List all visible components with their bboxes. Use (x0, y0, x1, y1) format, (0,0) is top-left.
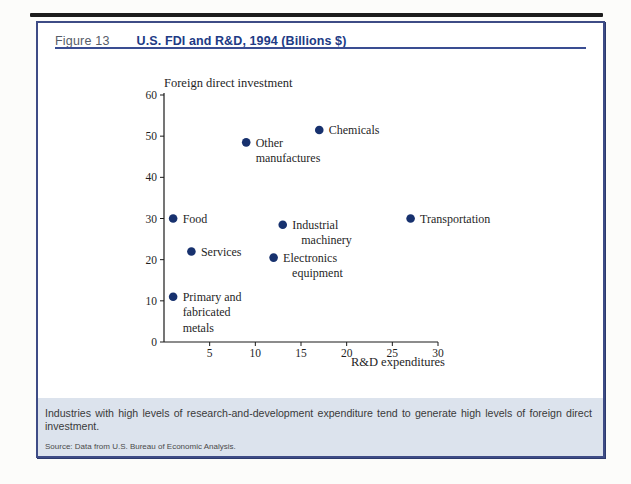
scatter-plot-svg: Foreign direct investmentR&D expenditure… (38, 23, 603, 398)
source-note: Source: Data from U.S. Bureau of Economi… (38, 433, 603, 451)
point-label-industrial-machinery-line2: machinery (301, 233, 352, 247)
point-label-electronics-equipment-line1: Electronics (283, 251, 337, 265)
y-tick-label-20: 20 (146, 254, 158, 266)
point-label-industrial-machinery-line1: Industrial (292, 218, 339, 232)
point-label-chemicals: Chemicals (329, 123, 380, 137)
data-point-transportation (406, 214, 415, 223)
y-axis-title: Foreign direct investment (164, 76, 293, 90)
x-tick-label-10: 10 (250, 347, 262, 359)
y-tick-label-0: 0 (151, 336, 157, 348)
point-label-services: Services (201, 245, 242, 259)
data-point-food (169, 214, 178, 223)
data-point-other-manufactures (242, 138, 251, 147)
x-tick-label-30: 30 (432, 347, 444, 359)
data-point-chemicals (315, 126, 324, 135)
point-label-other-manufactures-line2: manufactures (256, 151, 321, 165)
x-tick-label-5: 5 (207, 347, 213, 359)
point-label-other-manufactures-line1: Other (256, 136, 283, 150)
y-tick-label-10: 10 (146, 295, 158, 307)
scatter-chart: Foreign direct investmentR&D expenditure… (38, 23, 603, 398)
point-label-primary-and-fabricated-metals-line3: metals (183, 321, 215, 335)
y-tick-label-30: 30 (146, 213, 158, 225)
figure-box: Figure 13U.S. FDI and R&D, 1994 (Billion… (36, 21, 605, 458)
page-top-scan-bar (30, 13, 603, 17)
figure-caption: Industries with high levels of research-… (38, 398, 603, 433)
x-tick-label-20: 20 (341, 347, 353, 359)
point-label-food: Food (183, 212, 208, 226)
y-tick-label-40: 40 (146, 171, 158, 183)
point-label-primary-and-fabricated-metals-line1: Primary and (183, 290, 242, 304)
x-tick-label-25: 25 (387, 347, 399, 359)
data-point-electronics-equipment (269, 253, 278, 262)
x-tick-label-15: 15 (295, 347, 307, 359)
data-point-primary-and-fabricated-metals (169, 292, 178, 301)
y-tick-label-60: 60 (146, 89, 158, 101)
y-tick-label-50: 50 (146, 130, 158, 142)
point-label-transportation: Transportation (420, 212, 490, 226)
point-label-electronics-equipment-line2: equipment (292, 266, 343, 280)
data-point-services (187, 247, 196, 256)
point-label-primary-and-fabricated-metals-line2: fabricated (183, 305, 231, 319)
data-point-industrial-machinery (278, 220, 287, 229)
caption-panel: Industries with high levels of research-… (38, 398, 603, 456)
